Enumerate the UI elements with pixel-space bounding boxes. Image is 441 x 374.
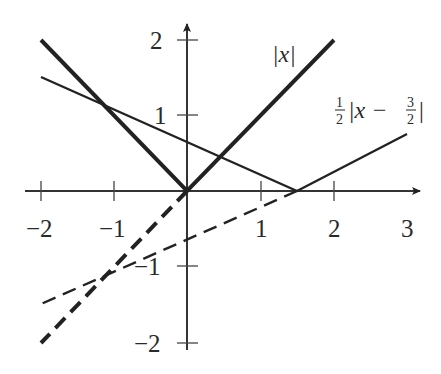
abs-expression: |x − xyxy=(348,97,387,123)
abs-x-label: |x| xyxy=(272,41,296,67)
three-denominator: 2 xyxy=(407,112,414,127)
y-tick-label: 1 xyxy=(154,102,167,129)
three-numerator: 3 xyxy=(407,95,414,110)
y-tick-label: −2 xyxy=(134,330,161,357)
half-numerator: 1 xyxy=(336,95,343,110)
x-tick-label: 2 xyxy=(328,215,341,242)
half-abs-shift-label: 1 2 |x − 3 2 | xyxy=(335,95,424,127)
half-denominator: 2 xyxy=(336,112,343,127)
y-tick-label: 2 xyxy=(150,27,163,54)
x-tick-label: 3 xyxy=(401,215,414,242)
chart: −2 −1 1 2 3 2 1 −1 −2 |x| 1 2 |x − 3 2 | xyxy=(0,0,441,374)
x-tick-label: 1 xyxy=(255,215,268,242)
x-tick-label: −2 xyxy=(26,215,53,242)
x-tick-label: −1 xyxy=(99,215,126,242)
x-dashed-line xyxy=(41,191,187,343)
abs-close: | xyxy=(419,97,424,123)
